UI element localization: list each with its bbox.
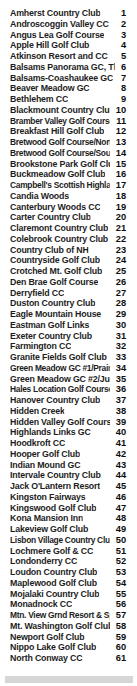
list-item[interactable]: Bretwood Golf Course/North13 — [0, 137, 137, 148]
course-name: Mojalaki Country Club — [10, 589, 99, 600]
course-index-list: Amherst Country Club1Androscoggin Valley… — [0, 8, 137, 664]
list-item[interactable]: Hidden Valley Golf Course39 — [0, 417, 137, 428]
list-item[interactable]: Indian Mound GC43 — [0, 460, 137, 471]
list-item[interactable]: North Conway CC61 — [0, 653, 137, 664]
course-name: Colebrook Country Club — [10, 234, 108, 245]
list-item[interactable]: Breakfast Hill Golf Club12 — [0, 126, 137, 137]
list-item[interactable]: Campbell's Scottish Highlands17 — [0, 180, 137, 191]
list-item[interactable]: Farmington CC32 — [0, 341, 137, 352]
list-item[interactable]: Hooper Golf Club42 — [0, 449, 137, 460]
list-item[interactable]: Maplewood Golf Club54 — [0, 578, 137, 589]
list-item[interactable]: Nippo Lake Golf Club60 — [0, 642, 137, 653]
course-number: 33 — [113, 352, 126, 363]
course-name: Kona Mansion Inn — [10, 513, 83, 524]
list-item[interactable]: Green Meadow GC #2/Jungle35 — [0, 374, 137, 385]
course-number: 42 — [113, 449, 126, 460]
list-item[interactable]: Hanover Country Club37 — [0, 395, 137, 406]
list-item[interactable]: Lisbon Village Country Club50 — [0, 535, 137, 546]
course-number: 31 — [113, 331, 126, 342]
course-number: 46 — [113, 492, 126, 503]
list-item[interactable]: Highlands Links GC40 — [0, 427, 137, 438]
course-number: 17 — [115, 180, 126, 191]
course-name: Intervale Country Club — [10, 470, 101, 481]
list-item[interactable]: Beaver Meadow GC8 — [0, 83, 137, 94]
list-item[interactable]: Blackmount Country Club10 — [0, 105, 137, 116]
course-number: 5 — [118, 51, 126, 62]
list-item[interactable]: Country Club of NH23 — [0, 245, 137, 256]
course-name: Den Brae Golf Course — [10, 277, 98, 288]
course-number: 47 — [113, 503, 126, 514]
list-item[interactable]: Brookstone Park Golf Club15 — [0, 159, 137, 170]
list-item[interactable]: Lochmere Golf & CC51 — [0, 546, 137, 557]
list-item[interactable]: Claremont Country Club21 — [0, 223, 137, 234]
list-item[interactable]: Eastman Golf Links30 — [0, 320, 137, 331]
list-item[interactable]: Apple Hill Golf Club4 — [0, 40, 137, 51]
course-number: 18 — [113, 191, 126, 202]
list-item[interactable]: Hidden Creek38 — [0, 406, 137, 417]
course-number: 25 — [113, 266, 126, 277]
list-item[interactable]: Duston Country Club28 — [0, 298, 137, 309]
list-item[interactable]: Kingswood Golf Club47 — [0, 503, 137, 514]
course-name: Claremont Country Club — [10, 223, 108, 234]
list-item[interactable]: Kingston Fairways46 — [0, 492, 137, 503]
list-item[interactable]: Jack O'Lantern Resort45 — [0, 481, 137, 492]
course-name: Monadnock CC — [10, 599, 72, 610]
list-item[interactable]: Monadnock CC56 — [0, 599, 137, 610]
list-item[interactable]: Carter Country Club20 — [0, 212, 137, 223]
list-item[interactable]: Londonderry CC52 — [0, 556, 137, 567]
list-item[interactable]: Exeter Country Club31 — [0, 331, 137, 342]
course-name: Hales Location Golf Course — [10, 384, 110, 395]
list-item[interactable]: Bramber Valley Golf Course11 — [0, 116, 137, 127]
course-name: Buckmeadow Golf Club — [10, 169, 106, 180]
course-name: Breakfast Hill Golf Club — [10, 126, 104, 137]
course-name: Bretwood Golf Course/North — [10, 137, 110, 148]
course-number: 58 — [113, 621, 126, 632]
list-item[interactable]: Kona Mansion Inn48 — [0, 513, 137, 524]
list-item[interactable]: Hales Location Golf Course36 — [0, 384, 137, 395]
list-item[interactable]: Granite Fields Golf Club33 — [0, 352, 137, 363]
list-item[interactable]: Newport Golf Club59 — [0, 632, 137, 643]
course-number: 28 — [113, 298, 126, 309]
course-name: Angus Lea Golf Course — [10, 30, 104, 41]
course-name: Countryside Golf Club — [10, 255, 100, 266]
list-item[interactable]: Bethlehem CC9 — [0, 94, 137, 105]
list-item[interactable]: Candia Woods18 — [0, 191, 137, 202]
course-number: 23 — [113, 245, 126, 256]
list-item[interactable]: Angus Lea Golf Course3 — [0, 30, 137, 41]
course-name: Kingston Fairways — [10, 492, 85, 503]
list-item[interactable]: Green Meadow GC #1/Prairie34 — [0, 363, 137, 374]
course-name: Balsams-Coashaukee GC — [10, 73, 113, 84]
list-item[interactable]: Balsams-Coashaukee GC7 — [0, 73, 137, 84]
course-name: Granite Fields Golf Club — [10, 352, 107, 363]
course-name: Exeter Country Club — [10, 331, 92, 342]
list-item[interactable]: Colebrook Country Club22 — [0, 234, 137, 245]
list-item[interactable]: Countryside Golf Club24 — [0, 255, 137, 266]
course-name: Blackmount Country Club — [10, 105, 110, 116]
course-number: 43 — [113, 460, 126, 471]
list-item[interactable]: Buckmeadow Golf Club16 — [0, 169, 137, 180]
list-item[interactable]: Hoodkroft CC41 — [0, 438, 137, 449]
list-item[interactable]: Androscoggin Valley CC2 — [0, 19, 137, 30]
list-item[interactable]: Canterbury Woods CC19 — [0, 202, 137, 213]
list-item[interactable]: Mt. Washington Golf Club58 — [0, 621, 137, 632]
course-number: 3 — [118, 30, 126, 41]
list-item[interactable]: Balsams Panorama GC, The6 — [0, 62, 137, 73]
course-name: Hooper Golf Club — [10, 449, 80, 460]
list-item[interactable]: Crotched Mt. Golf Club25 — [0, 266, 137, 277]
list-item[interactable]: Amherst Country Club1 — [0, 8, 137, 19]
course-number: 27 — [113, 288, 126, 299]
list-item[interactable]: Intervale Country Club44 — [0, 470, 137, 481]
list-item[interactable]: Eagle Mountain House29 — [0, 309, 137, 320]
list-item[interactable]: Atkinson Resort and CC5 — [0, 51, 137, 62]
list-item[interactable]: Mojalaki Country Club55 — [0, 589, 137, 600]
list-item[interactable]: Lakeview Golf Club49 — [0, 524, 137, 535]
list-item[interactable]: Den Brae Golf Course26 — [0, 277, 137, 288]
course-name: Jack O'Lantern Resort — [10, 481, 100, 492]
course-number: 44 — [113, 470, 126, 481]
list-item[interactable]: Derryfield CC27 — [0, 288, 137, 299]
list-item[interactable]: Loudon Country Club53 — [0, 567, 137, 578]
list-item[interactable]: Bretwood Golf Course/South14 — [0, 148, 137, 159]
list-item[interactable]: Mtn. View Grnd Resort & Spa57 — [0, 610, 137, 621]
course-number: 20 — [113, 212, 126, 223]
course-number: 37 — [113, 395, 126, 406]
